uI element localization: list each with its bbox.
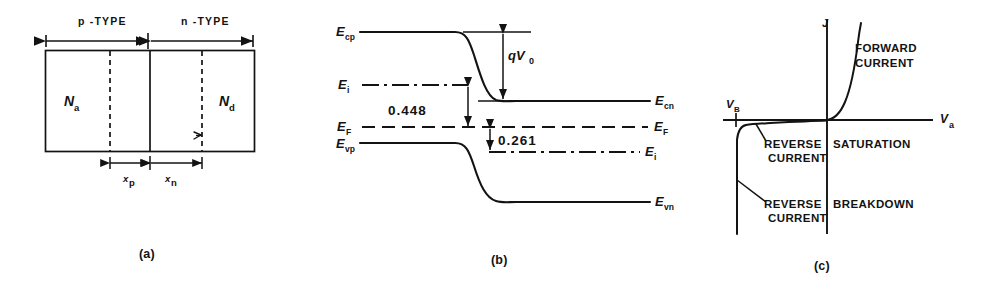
forward-current-label-line2: CURRENT xyxy=(855,57,914,69)
panel-c-group: J V a V B FORWARD CURRENT REVERSE CURREN… xyxy=(723,17,955,234)
caption-panel-b: (b) xyxy=(491,253,508,267)
reverse-breakdown-leader xyxy=(737,180,766,202)
reverse-breakdown-label-line1: REVERSE xyxy=(764,198,822,210)
caption-panel-c: (c) xyxy=(814,259,830,273)
level-label-evn: E xyxy=(655,194,664,209)
saturation-label: SATURATION xyxy=(833,138,911,150)
level-label-ecn: E xyxy=(655,93,664,108)
energy-gap-n-value: 0.261 xyxy=(498,133,537,148)
forward-current-curve xyxy=(827,23,861,120)
reverse-breakdown-label-line2: CURRENT xyxy=(768,212,827,224)
caption-panel-a: (a) xyxy=(139,247,155,261)
level-label-ei-n: E xyxy=(645,144,654,159)
level-label-ecp: E xyxy=(336,24,345,39)
barrier-height-measure xyxy=(463,32,531,101)
panel-b-left-labels: E cp E i E F E vp xyxy=(336,24,355,154)
level-subscript-ei-p: i xyxy=(347,85,349,95)
xn-label: x xyxy=(164,173,171,184)
reverse-saturation-label-line1: REVERSE xyxy=(764,138,822,150)
energy-gap-p-value: 0.448 xyxy=(388,103,427,118)
panel-b-group: E cp E i E F E vp E cn E F E i E vn xyxy=(336,24,674,212)
reverse-saturation-label-line2: CURRENT xyxy=(768,152,827,164)
depletion-width-dimension xyxy=(110,156,202,170)
p-type-dimension xyxy=(46,33,148,49)
current-axis-label: J xyxy=(822,17,829,29)
level-subscript-ei-n: i xyxy=(654,152,656,162)
level-subscript-ecp: cp xyxy=(345,32,355,42)
junction-mark-glyph xyxy=(194,132,202,139)
barrier-subscript: 0 xyxy=(529,56,534,66)
donor-concentration-subscript: d xyxy=(229,102,235,113)
breakdown-voltage-subscript: B xyxy=(734,105,740,114)
level-subscript-ef-n: F xyxy=(663,127,668,137)
panel-a-group: p -TYPE n -TYPE N a N d x p x n xyxy=(46,15,255,188)
level-label-ef-p: E xyxy=(337,119,346,134)
n-type-dimension xyxy=(151,35,253,47)
level-subscript-ef-p: F xyxy=(346,127,351,137)
reverse-breakdown-curve xyxy=(737,125,746,234)
level-label-ef-n: E xyxy=(654,119,663,134)
panel-b-right-labels: E cn E F E i E vn xyxy=(645,93,674,212)
voltage-axis-label: V xyxy=(940,112,949,126)
forward-current-label-line1: FORWARD xyxy=(855,42,917,54)
xp-label: x xyxy=(122,173,129,184)
conduction-band-edge xyxy=(360,32,650,101)
voltage-axis-subscript: a xyxy=(949,120,955,130)
level-subscript-evp: vp xyxy=(345,144,355,154)
breakdown-label: BREAKDOWN xyxy=(833,198,914,210)
xn-subscript: n xyxy=(171,177,177,188)
p-type-label: p -TYPE xyxy=(78,15,127,27)
barrier-label: qV xyxy=(508,48,526,63)
level-label-ei-p: E xyxy=(338,77,347,92)
reverse-saturation-curve xyxy=(746,121,827,126)
n-type-label: n -TYPE xyxy=(181,15,230,27)
level-label-evp: E xyxy=(336,136,345,151)
level-subscript-ecn: cn xyxy=(664,101,674,111)
level-subscript-evn: vn xyxy=(664,202,674,212)
xp-subscript: p xyxy=(129,177,135,188)
acceptor-concentration-subscript: a xyxy=(74,102,80,113)
figure-root: p -TYPE n -TYPE N a N d x p x n xyxy=(0,0,987,299)
